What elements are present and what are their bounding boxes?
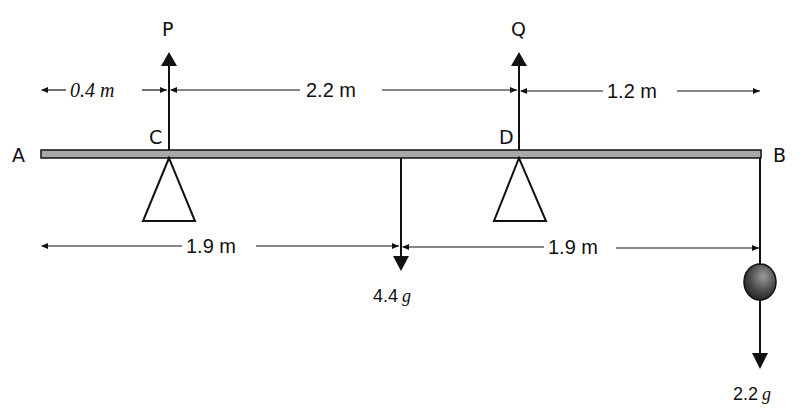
dimension-a-mid: 1.9 m [42,235,399,257]
label-a: A [12,144,25,166]
svg-text:1.2 m: 1.2 m [607,80,657,102]
dimension-db: 1.2 m [521,80,760,102]
load-b-arrow-icon [752,300,768,369]
svg-text:1.9 m: 1.9 m [548,236,598,258]
dimension-ac: 0.4 m [42,79,167,101]
svg-text:1.9 m: 1.9 m [186,235,236,257]
reaction-p-arrow-icon [161,52,177,150]
load-b-label: 2.2g [733,384,771,404]
svg-text:0.4 m: 0.4 m [70,79,114,101]
dimension-mid-b: 1.9 m [403,236,759,258]
label-p: P [162,18,173,40]
support-d-triangle-icon [494,158,546,221]
dimension-cd: 2.2 m [171,79,517,101]
beam-diagram: A B C D P Q 0.4 m 2.2 m 1.2 m 4.4g [0,0,803,417]
svg-text:2.2 m: 2.2 m [306,79,356,101]
load-mid-arrow-icon [393,158,409,271]
load-mid-label: 4.4g [373,286,411,306]
label-q: Q [511,18,526,40]
label-c: C [149,126,162,148]
support-c-triangle-icon [143,158,195,221]
hanging-mass-icon [744,264,776,300]
label-b: B [773,144,786,166]
label-d: D [499,126,514,148]
beam [41,150,761,158]
